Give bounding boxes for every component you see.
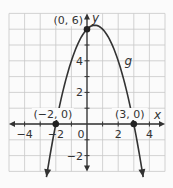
point-label: (0, 6) (53, 14, 83, 27)
point-label: (3, 0) (115, 108, 145, 121)
y-tick-label: 4 (76, 55, 83, 68)
x-tick-label: 2 (115, 128, 122, 141)
x-tick-label: 4 (146, 128, 153, 141)
point-marker (84, 26, 91, 33)
curve-label-g: g (124, 54, 132, 68)
y-axis-down-arrow-icon (84, 165, 90, 171)
point-marker (131, 121, 138, 128)
curve-left-arrow-icon (44, 169, 51, 177)
y-tick-label: −2 (67, 150, 83, 163)
y-tick-label: 2 (76, 86, 83, 99)
y-axis-label: y (91, 11, 100, 25)
parabola-graph: −4−2024−224xy (0, 6)(−2, 0)(3, 0)g (0, 0, 173, 188)
point-marker (53, 121, 60, 128)
point-label: (−2, 0) (33, 108, 72, 121)
x-axis-label: x (153, 108, 162, 122)
x-tick-label: 0 (78, 128, 85, 141)
y-axis-up-arrow-icon (84, 13, 90, 19)
x-axis-left-arrow-icon (9, 121, 15, 127)
x-tick-label: −2 (48, 128, 64, 141)
x-tick-label: −4 (16, 128, 32, 141)
curve-g (46, 25, 143, 177)
curve-arrow-icons (44, 169, 145, 177)
curve-right-arrow-icon (138, 169, 145, 177)
